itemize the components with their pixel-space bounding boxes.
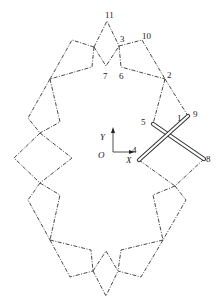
node-label-6: 6 xyxy=(119,71,124,81)
x-axis-label: X xyxy=(125,155,132,165)
node-label-8: 8 xyxy=(206,154,211,164)
node-label-1: 1 xyxy=(177,113,182,123)
node-labels: 11 3 10 7 6 2 5 1 9 4 8 xyxy=(103,10,211,164)
y-axis-label: Y xyxy=(100,132,106,142)
rigid-bars xyxy=(139,116,204,160)
node-label-3: 3 xyxy=(120,34,125,44)
coordinate-axes: Y O X xyxy=(98,127,135,165)
origin-label: O xyxy=(98,150,105,160)
node-label-5: 5 xyxy=(141,117,146,127)
dash-dot-linkage xyxy=(14,21,204,296)
node-label-11: 11 xyxy=(105,10,114,20)
mechanism-diagram: Y O X 11 3 10 7 6 2 5 1 9 4 8 xyxy=(0,0,220,304)
node-label-2: 2 xyxy=(167,70,172,80)
node-label-4: 4 xyxy=(132,145,137,155)
node-label-9: 9 xyxy=(193,109,198,119)
node-label-7: 7 xyxy=(103,71,108,81)
node-label-10: 10 xyxy=(142,31,152,41)
